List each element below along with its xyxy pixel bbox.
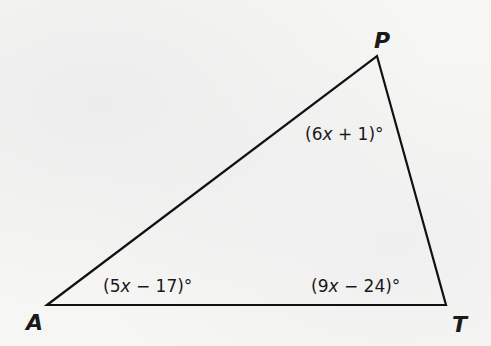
vertex-label-t: T bbox=[452, 312, 469, 337]
angle-t-prefix: (9 bbox=[311, 276, 328, 296]
angle-t-suffix: − 24)° bbox=[339, 276, 401, 296]
diagram-canvas: A P T (5x − 17)° (9x − 24)° (6x + 1)° bbox=[0, 0, 491, 346]
vertex-label-a: A bbox=[24, 310, 43, 335]
angle-p-suffix: + 1)° bbox=[333, 124, 384, 144]
angle-label-p: (6x + 1)° bbox=[305, 124, 384, 144]
angle-p-prefix: (6 bbox=[305, 124, 322, 144]
angle-a-suffix: − 17)° bbox=[131, 276, 193, 296]
angle-label-t: (9x − 24)° bbox=[311, 276, 400, 296]
triangle-apt bbox=[47, 56, 446, 305]
angle-a-prefix: (5 bbox=[103, 276, 120, 296]
triangle-figure: A P T (5x − 17)° (9x − 24)° (6x + 1)° bbox=[0, 0, 491, 346]
vertex-label-p: P bbox=[374, 28, 390, 53]
angle-label-a: (5x − 17)° bbox=[103, 276, 192, 296]
